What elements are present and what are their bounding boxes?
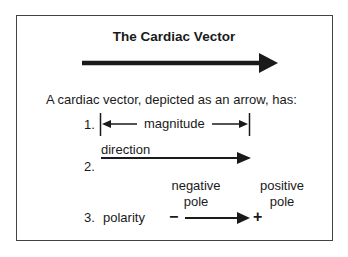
- item-1-number: 1.: [84, 118, 95, 131]
- negative-pole-label-line2: pole: [152, 195, 240, 208]
- intro-text: A cardiac vector, depicted as an arrow, …: [46, 93, 297, 106]
- positive-pole-label-line1: positive: [238, 179, 326, 192]
- magnitude-label: magnitude: [144, 117, 205, 130]
- polarity-arrow-icon: [185, 212, 250, 224]
- direction-label: direction: [101, 143, 150, 156]
- item-3-number: 3.: [84, 211, 95, 224]
- negative-pole-label-line1: negative: [152, 179, 240, 192]
- negative-pole-symbol: −: [169, 209, 178, 225]
- positive-pole-symbol: +: [253, 209, 262, 225]
- positive-pole-label-line2: pole: [238, 195, 326, 208]
- polarity-label: polarity: [103, 211, 145, 224]
- main-vector-arrow-icon: [82, 53, 278, 73]
- item-2-number: 2.: [84, 160, 95, 173]
